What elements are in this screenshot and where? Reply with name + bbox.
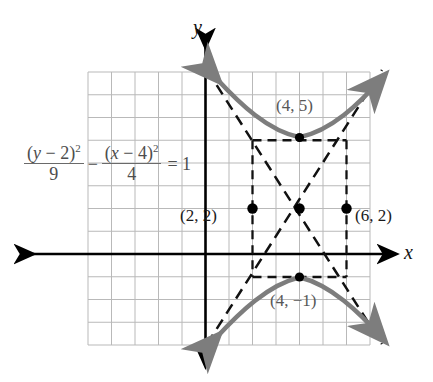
y-term-exponent: 2 [75,142,81,154]
fraction-x-numerator: (x − 4)2 [102,143,162,163]
point-vertex-bottom [295,272,304,281]
point-left [247,203,257,213]
equals-one: = 1 [161,154,191,175]
fraction-x-term: (x − 4)2 4 [102,143,162,184]
hyperbola-figure: y x (4, 5) (4, −1) (2, 2) (6, 2) (y − 2)… [0,0,433,382]
vertex-bottom-label: (4, −1) [270,291,316,311]
hyperbola-equation: (y − 2)2 9 − (x − 4)2 4 = 1 [24,143,191,184]
point-center [294,203,304,213]
graph-canvas [0,0,433,382]
minus-operator: − [84,154,102,175]
fraction-y-denominator: 9 [46,164,61,183]
fraction-y-numerator: (y − 2)2 [24,143,84,163]
point-left-label: (2, 2) [180,206,217,226]
vertex-top-label: (4, 5) [276,96,313,116]
x-term-exponent: 2 [153,142,159,154]
x-axis-label: x [404,241,413,264]
fraction-x-denominator: 4 [124,164,139,183]
grid-lines [88,72,370,345]
point-vertex-top [295,133,304,142]
y-axis-label: y [193,16,202,39]
point-right-label: (6, 2) [355,206,392,226]
fraction-y-term: (y − 2)2 9 [24,143,84,184]
point-right [341,203,351,213]
